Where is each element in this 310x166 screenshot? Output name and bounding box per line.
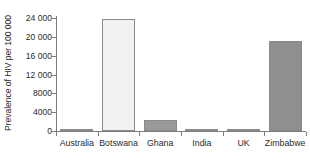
x-axis-tick-mark bbox=[56, 132, 57, 136]
x-axis-tick-mark bbox=[264, 132, 265, 136]
x-axis-label-australia: Australia bbox=[60, 138, 94, 148]
bar-india bbox=[185, 129, 218, 131]
y-axis-tick-mark bbox=[52, 18, 57, 19]
bar-australia bbox=[60, 129, 93, 131]
y-axis-tick-mark bbox=[52, 93, 57, 94]
bar-ghana bbox=[144, 120, 177, 131]
x-axis-label-india: India bbox=[192, 138, 211, 148]
x-axis-label-zimbabwe: Zimbabwe bbox=[265, 138, 306, 148]
bar-zimbabwe bbox=[269, 41, 302, 131]
x-axis-label-ghana: Ghana bbox=[147, 138, 173, 148]
x-axis-tick-mark bbox=[139, 132, 140, 136]
bar-uk bbox=[227, 129, 260, 131]
y-axis-tick-mark bbox=[52, 75, 57, 76]
x-axis-label-uk: UK bbox=[237, 138, 249, 148]
y-axis-title-label: Prevalence of HIV per 100 000 bbox=[3, 14, 13, 130]
y-axis-tick-labels: 04000800012 00016 00020 00024 000 bbox=[16, 12, 54, 136]
y-axis-tick-mark bbox=[52, 112, 57, 113]
hiv-prevalence-bar-chart: Prevalence of HIV per 100 000 0400080001… bbox=[0, 0, 310, 166]
y-axis-tick-label: 4000 bbox=[33, 107, 52, 117]
x-axis-tick-mark bbox=[306, 132, 307, 136]
x-axis-tick-mark bbox=[223, 132, 224, 136]
y-axis-tick-label: 20 000 bbox=[26, 32, 52, 42]
y-axis-tick-label: 8000 bbox=[33, 88, 52, 98]
y-axis-tick-mark bbox=[52, 37, 57, 38]
y-axis-title: Prevalence of HIV per 100 000 bbox=[0, 0, 16, 145]
y-axis-tick-label: 16 000 bbox=[26, 51, 52, 61]
plot-area bbox=[56, 18, 306, 131]
x-axis-tick-mark bbox=[98, 132, 99, 136]
x-axis-category-labels: AustraliaBotswanaGhanaIndiaUKZimbabwe bbox=[56, 138, 306, 158]
y-axis-tick-mark bbox=[52, 56, 57, 57]
bar-botswana bbox=[102, 19, 135, 131]
x-axis-tick-mark bbox=[181, 132, 182, 136]
y-axis-tick-label: 24 000 bbox=[26, 13, 52, 23]
y-axis-tick-label: 12 000 bbox=[26, 70, 52, 80]
x-axis-label-botswana: Botswana bbox=[99, 138, 138, 148]
